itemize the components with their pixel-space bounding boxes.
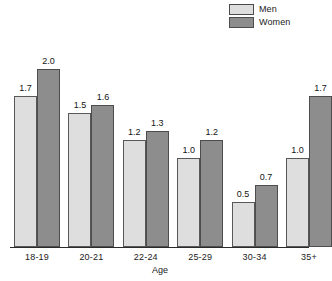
bar-group: 1.5 1.6 <box>68 40 114 247</box>
bar-rect-women <box>255 185 278 247</box>
bar-men: 1.5 <box>68 40 91 247</box>
bar-rect-men <box>123 140 146 247</box>
bar-rect-men <box>68 113 91 247</box>
legend-item-women: Women <box>229 17 290 28</box>
bar-men: 1.0 <box>286 40 309 247</box>
bar-group: 0.5 0.7 <box>232 40 278 247</box>
bar-rect-women <box>91 105 114 247</box>
x-tick-label: 30-34 <box>232 251 278 263</box>
x-tick-label: 35+ <box>286 251 332 263</box>
bar-rect-men <box>232 202 255 247</box>
bar-value-men: 1.0 <box>291 145 304 155</box>
bar-value-women: 1.3 <box>151 118 164 128</box>
bar-value-women: 2.0 <box>42 56 55 66</box>
chart-legend: Men Women <box>229 4 290 28</box>
x-tick-label: 25-29 <box>177 251 223 263</box>
plot-area: 1.7 2.0 1.5 1.6 1.2 1.3 <box>10 40 309 248</box>
legend-swatch-men <box>229 4 254 15</box>
bar-rect-men <box>286 158 309 247</box>
bar-group: 1.0 1.2 <box>177 40 223 247</box>
bar-group: 1.2 1.3 <box>123 40 169 247</box>
x-axis-line <box>10 247 309 248</box>
bar-rect-women <box>37 69 60 247</box>
bar-value-men: 1.5 <box>74 100 87 110</box>
bar-rect-women <box>200 140 223 247</box>
x-tick-label: 22-24 <box>123 251 169 263</box>
x-tick-label: 20-21 <box>68 251 114 263</box>
x-axis-tick-labels: 18-19 20-21 22-24 25-29 30-34 35+ <box>10 251 309 264</box>
bar-women: 1.6 <box>91 40 114 247</box>
bar-value-women: 1.2 <box>205 127 218 137</box>
bar-value-men: 1.0 <box>182 145 195 155</box>
x-tick-label: 18-19 <box>14 251 60 263</box>
bar-men: 1.2 <box>123 40 146 247</box>
bar-group: 1.7 2.0 <box>14 40 60 247</box>
legend-label-men: Men <box>259 4 277 15</box>
bar-value-men: 1.2 <box>128 127 141 137</box>
bar-rect-men <box>14 96 37 247</box>
bar-rect-women <box>309 96 332 247</box>
bar-rect-men <box>177 158 200 247</box>
bar-men: 1.7 <box>14 40 37 247</box>
bar-group: 1.0 1.7 <box>286 40 332 247</box>
bar-women: 1.7 <box>309 40 332 247</box>
bar-rect-women <box>146 131 169 247</box>
bar-women: 1.3 <box>146 40 169 247</box>
bar-women: 1.2 <box>200 40 223 247</box>
bar-women: 0.7 <box>255 40 278 247</box>
bar-women: 2.0 <box>37 40 60 247</box>
bar-value-men: 0.5 <box>237 189 250 199</box>
bar-value-men: 1.7 <box>19 83 32 93</box>
bar-men: 1.0 <box>177 40 200 247</box>
bar-value-women: 1.7 <box>314 83 327 93</box>
bar-value-women: 1.6 <box>97 92 110 102</box>
legend-swatch-women <box>229 17 254 28</box>
legend-label-women: Women <box>259 17 290 28</box>
x-axis-title: Age <box>0 264 320 276</box>
bar-men: 0.5 <box>232 40 255 247</box>
bar-value-women: 0.7 <box>260 172 273 182</box>
legend-item-men: Men <box>229 4 290 15</box>
